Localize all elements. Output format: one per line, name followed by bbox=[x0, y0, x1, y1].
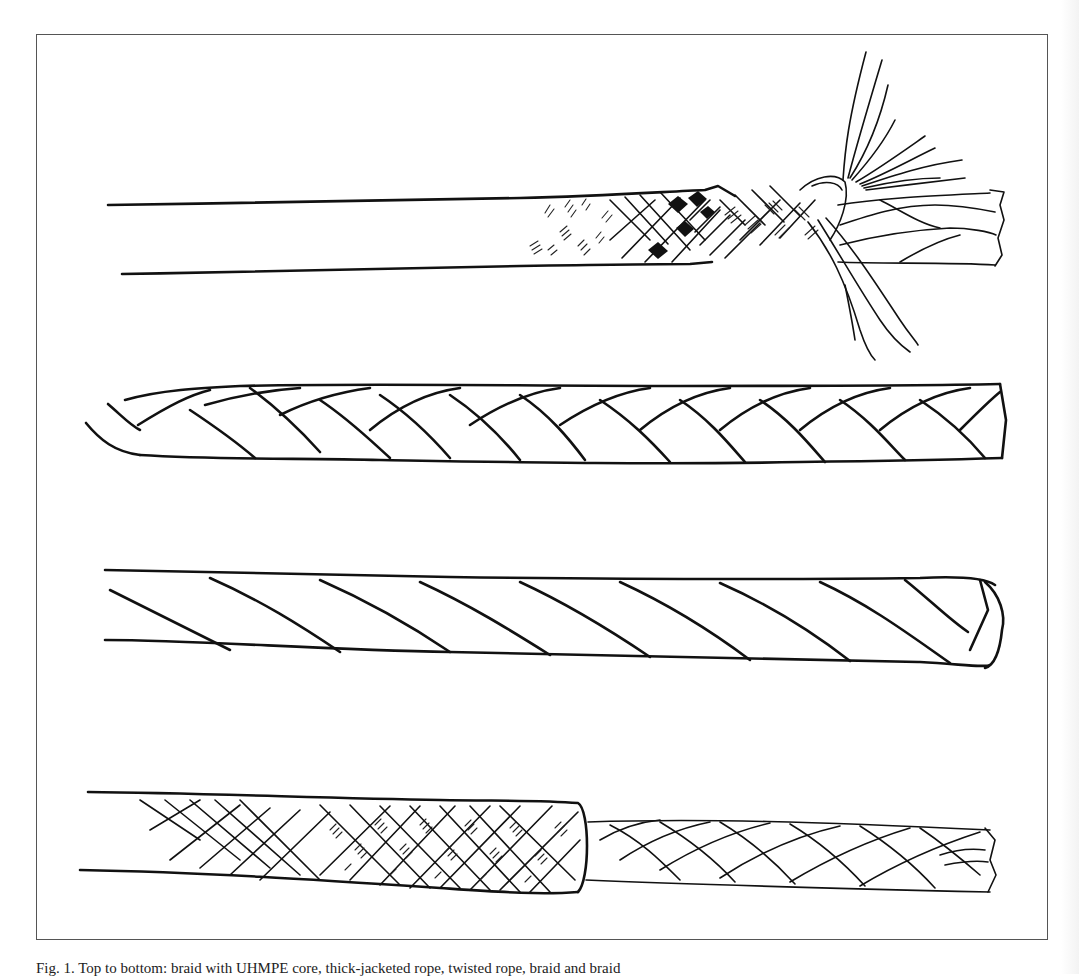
braid-on-braid-rope bbox=[80, 792, 996, 893]
figure-caption: Fig. 1. Top to bottom: braid with UHMPE … bbox=[36, 958, 1036, 978]
braided-rope bbox=[86, 384, 1006, 463]
twisted-rope bbox=[105, 570, 1003, 668]
braid-with-core-rope bbox=[108, 52, 1004, 360]
